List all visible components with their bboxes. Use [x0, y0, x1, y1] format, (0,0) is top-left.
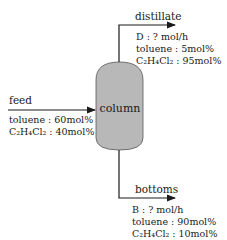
distillate-label: distillate [135, 10, 181, 22]
distillate-c2h4cl2: C₂H₄Cl₂ : 95mol% [136, 55, 221, 67]
column-label: column [97, 102, 143, 115]
bottoms-toluene: toluene : 90mol% [132, 216, 216, 228]
bottoms-flow: B : ? mol/h [132, 204, 183, 216]
feed-c2h4cl2: C₂H₄Cl₂ : 40mol% [9, 126, 94, 138]
bottoms-c2h4cl2: C₂H₄Cl₂ : 10mol% [132, 228, 217, 240]
distillate-toluene: toluene : 5mol% [136, 43, 214, 55]
feed-label: feed [9, 94, 32, 106]
feed-toluene: toluene : 60mol% [9, 114, 93, 126]
distillate-flow: D : ? mol/h [136, 31, 188, 43]
bottoms-label: bottoms [135, 183, 178, 195]
